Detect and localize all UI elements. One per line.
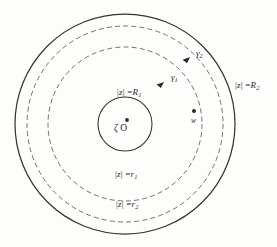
gamma-1-arrowhead: [156, 80, 165, 89]
zeta-value: O: [118, 123, 127, 133]
label-contour-gamma-2: γ2: [196, 49, 203, 60]
label-modulus-R1: |z| =R1: [117, 88, 142, 99]
gamma-1-subscript: 1: [175, 76, 178, 83]
label-modulus-R2: |z| =R2: [235, 81, 260, 92]
gamma-2-arrowhead: [183, 55, 192, 64]
label-contour-gamma-1: γ1: [171, 73, 178, 84]
figure-canvas: |z| =R1 |z| =R2 |z| =r1 |z| =r2 γ1 γ2 ζ …: [0, 0, 277, 247]
point-w-dot: [192, 109, 196, 113]
label-modulus-r1: |z| =r1: [115, 170, 138, 181]
gamma-2-subscript: 2: [200, 52, 203, 59]
label-origin-zeta: ζ O: [114, 124, 127, 134]
origin-dot: [125, 118, 129, 122]
label-modulus-r2: |z| =r2: [116, 200, 139, 211]
label-point-w: w: [191, 117, 196, 125]
